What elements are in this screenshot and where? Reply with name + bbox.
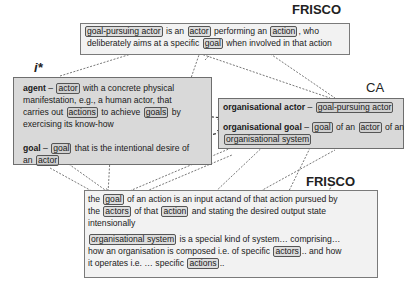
ref-goal[interactable]: goal — [51, 143, 71, 154]
term-organisational-actor: organisational actor — [223, 102, 305, 112]
text: to achieve — [99, 107, 143, 117]
text: with a concrete physical — [81, 83, 175, 93]
frisco-goal-pursuing-actor-definition: goal-pursuing actor is an actor performi… — [80, 23, 350, 55]
text: it operates i.e. … specific — [88, 258, 186, 268]
ref-action[interactable]: action — [270, 26, 297, 37]
source-label-istar: i* — [34, 60, 43, 75]
text: the — [88, 206, 102, 216]
source-label-ca: CA — [366, 80, 384, 95]
text: .. and how — [302, 246, 342, 256]
text: – — [41, 143, 51, 153]
term-goal-pursuing-actor[interactable]: goal-pursuing actor — [85, 26, 163, 37]
ref-goal[interactable]: goal — [203, 38, 223, 49]
ca-definitions: organisational actor – goal-pursuing act… — [218, 98, 404, 149]
text: by — [169, 107, 180, 117]
ref-organisational-system[interactable]: organisational system — [224, 134, 311, 145]
text: exercising its know-how — [23, 118, 202, 130]
text: how an organisation is composed i.e. of … — [88, 246, 272, 256]
text: and stating the desired output state — [189, 206, 326, 216]
text: an — [23, 155, 35, 165]
ref-actions[interactable]: actions — [187, 258, 218, 269]
text: of that — [132, 206, 161, 216]
text: performing an — [212, 26, 270, 36]
frisco-goal-and-system-definitions: the goal of an action is an input actand… — [84, 190, 378, 278]
text: is an — [164, 26, 187, 36]
term-goal: goal — [23, 143, 41, 153]
ref-actor[interactable]: actor — [188, 26, 211, 37]
ref-goals[interactable]: goals — [144, 107, 169, 118]
text: .. — [220, 258, 225, 268]
text: of an — [383, 122, 405, 132]
source-label-frisco-top: FRISCO — [292, 2, 341, 17]
text: of an — [334, 122, 358, 132]
ref-actors[interactable]: actors — [273, 246, 300, 257]
ref-actor[interactable]: actor — [36, 155, 59, 166]
text: , who — [298, 26, 319, 36]
text: carries out — [23, 107, 66, 117]
text: deliberately aims at a specific — [87, 38, 202, 48]
text: manifestation, e.g., a human actor, that — [23, 94, 202, 106]
ref-goal[interactable]: goal — [312, 122, 332, 133]
ref-actor[interactable]: actor — [56, 83, 79, 94]
text: of an action is an input actand of that … — [125, 194, 338, 204]
ref-action[interactable]: action — [161, 206, 188, 217]
ref-goal-pursuing-actor[interactable]: goal-pursuing actor — [316, 102, 394, 113]
term-organisational-goal: organisational goal — [223, 122, 302, 132]
text: the — [88, 194, 102, 204]
term-organisational-system[interactable]: organisational system — [89, 234, 176, 245]
ref-actions[interactable]: actions — [67, 107, 98, 118]
ref-actor[interactable]: actor — [359, 122, 382, 133]
text: is a special kind of system… comprising… — [177, 234, 340, 244]
text: when involved in that action — [224, 38, 332, 48]
text: – — [46, 83, 56, 93]
ref-actors[interactable]: actors — [103, 206, 130, 217]
text: – — [305, 102, 315, 112]
source-label-frisco-bottom: FRISCO — [306, 174, 355, 189]
ref-goal[interactable]: goal — [103, 194, 123, 205]
istar-definitions: agent – actor with a concrete physical m… — [13, 77, 212, 165]
text: that is the intentional desire of — [72, 143, 189, 153]
text: – — [302, 122, 312, 132]
term-agent: agent — [23, 83, 46, 93]
text: intensionally — [88, 217, 374, 229]
